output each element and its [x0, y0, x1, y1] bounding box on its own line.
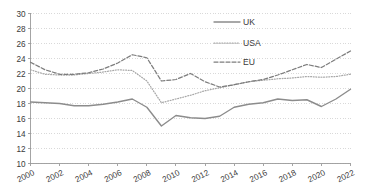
x-tick-labels: 2000200220042006200820102012201420162018…: [16, 168, 357, 184]
x-tick-label: 2022: [336, 168, 357, 184]
x-tick-label: 2000: [16, 168, 37, 184]
x-tick-label: 2006: [103, 168, 124, 184]
y-tick-label: 24: [16, 55, 26, 64]
line-chart: 1012141618202224262830 20002002200420062…: [0, 0, 365, 189]
x-tick-label: 2008: [132, 168, 153, 184]
y-tick-label: 20: [16, 85, 26, 94]
y-tick-label: 12: [16, 145, 26, 154]
y-tick-label: 16: [16, 115, 26, 124]
legend-label-usa: USA: [243, 38, 261, 48]
grid-lines: [31, 14, 351, 164]
y-tick-label: 18: [16, 100, 26, 109]
y-tick-label: 26: [16, 40, 26, 49]
legend-label-eu: EU: [243, 57, 255, 67]
y-tick-label: 30: [16, 10, 26, 19]
y-tick-label: 22: [16, 70, 26, 79]
y-axis: [28, 13, 31, 164]
y-tick-label: 10: [16, 160, 26, 169]
x-tick-label: 2010: [161, 168, 182, 184]
x-tick-label: 2016: [248, 168, 269, 184]
x-tick-label: 2014: [219, 168, 240, 184]
x-tick-label: 2012: [190, 168, 211, 184]
data-series: [31, 51, 351, 126]
x-tick-label: 2004: [74, 168, 95, 184]
chart-canvas: 1012141618202224262830 20002002200420062…: [0, 0, 365, 189]
y-tick-labels: 1012141618202224262830: [16, 10, 26, 169]
legend-label-uk: UK: [243, 17, 255, 27]
x-axis: [31, 164, 351, 167]
y-tick-label: 28: [16, 25, 26, 34]
chart-legend: UKUSAEU: [214, 17, 261, 67]
series-line-usa: [31, 70, 351, 103]
series-line-eu: [31, 51, 351, 87]
x-tick-label: 2020: [306, 168, 327, 184]
x-tick-label: 2002: [45, 168, 66, 184]
y-tick-label: 14: [16, 130, 26, 139]
x-tick-label: 2018: [277, 168, 298, 184]
